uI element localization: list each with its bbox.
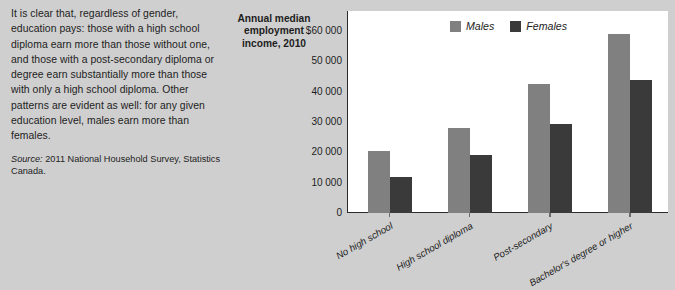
bar-females-1[interactable] [470, 155, 492, 213]
x-axis-tick-mark [389, 213, 390, 217]
plot-area: MalesFemales [347, 11, 668, 213]
legend-item-males[interactable]: Males [450, 20, 494, 32]
legend-swatch-icon [450, 21, 461, 32]
y-axis-tick-label: $60 000 [292, 25, 342, 36]
legend-label: Males [466, 20, 494, 32]
bar-females-2[interactable] [550, 124, 572, 213]
bars-layer [348, 11, 669, 213]
commentary-paragraph: It is clear that, regardless of gender, … [11, 6, 226, 144]
y-axis-tick-label: 0 [292, 207, 342, 218]
chart-legend: MalesFemales [348, 20, 669, 32]
bar-females-3[interactable] [630, 80, 652, 213]
y-axis-tick-label: 20 000 [292, 146, 342, 157]
legend-item-females[interactable]: Females [510, 20, 567, 32]
x-axis-tick-mark [549, 213, 550, 217]
commentary-column: It is clear that, regardless of gender, … [11, 6, 226, 178]
bar-males-3[interactable] [608, 34, 630, 213]
y-axis-tick-label: 10 000 [292, 176, 342, 187]
source-note: Source: 2011 National Household Survey, … [11, 153, 226, 178]
bar-males-1[interactable] [448, 128, 470, 213]
x-axis-tick-mark [469, 213, 470, 217]
source-label: Source: [11, 154, 43, 164]
x-axis-tick-mark [629, 213, 630, 217]
y-axis-tick-label: 50 000 [292, 55, 342, 66]
y-axis-tick-label: 30 000 [292, 116, 342, 127]
bar-females-0[interactable] [390, 177, 412, 213]
legend-swatch-icon [510, 21, 521, 32]
bar-males-0[interactable] [368, 151, 390, 213]
y-axis-tick-label: 40 000 [292, 85, 342, 96]
bar-males-2[interactable] [528, 84, 550, 213]
legend-label: Females [526, 20, 567, 32]
source-text: 2011 National Household Survey, Statisti… [11, 154, 220, 177]
